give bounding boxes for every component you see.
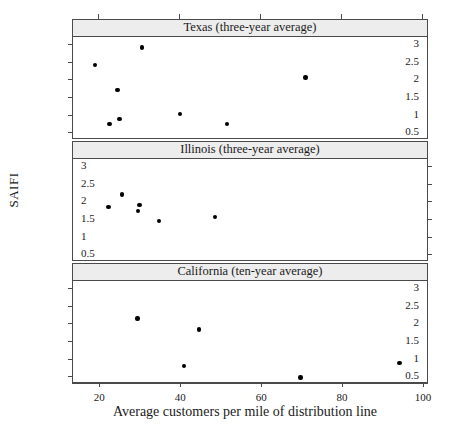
- x-axis-tick: [260, 14, 261, 19]
- y-axis-tick: [68, 97, 73, 98]
- y-axis-tick: [427, 184, 432, 185]
- y-axis-tick: [427, 237, 432, 238]
- data-point: [106, 205, 110, 209]
- y-axis-tick-label: 0.5: [81, 248, 95, 259]
- y-axis-tick-label: 0.5: [405, 370, 419, 381]
- y-axis-tick-label: 2.5: [81, 178, 95, 189]
- panel-plot-area: 0.511.522.5320406080100: [72, 280, 428, 383]
- x-axis-tick-label: 20: [94, 392, 105, 403]
- y-axis-tick-label: 2: [414, 317, 420, 328]
- x-axis-tick: [179, 14, 180, 19]
- panel-plot-area: 0.511.522.53: [72, 158, 428, 261]
- data-point: [136, 209, 140, 213]
- x-axis-tick: [98, 14, 99, 19]
- y-axis-tick: [68, 62, 73, 63]
- y-axis-tick-label: 0.5: [405, 126, 419, 137]
- y-axis-tick-label: 1.5: [405, 335, 419, 346]
- y-axis-label: SAIFI: [0, 0, 26, 380]
- y-axis-tick: [68, 44, 73, 45]
- y-axis-tick-label: 2: [81, 195, 87, 206]
- x-axis-line: [72, 383, 428, 384]
- y-axis-tick-label: 3: [414, 38, 420, 49]
- x-axis-tick-label: 60: [256, 392, 267, 403]
- data-point: [140, 45, 144, 49]
- y-axis-tick: [68, 115, 73, 116]
- y-axis-tick: [427, 201, 432, 202]
- panel-strip-label: California (ten-year average): [72, 263, 428, 280]
- y-axis-tick-label: 2: [414, 73, 420, 84]
- y-axis-tick: [68, 79, 73, 80]
- data-point: [117, 117, 121, 121]
- y-axis-tick: [427, 166, 432, 167]
- y-axis-tick-label: 3: [414, 282, 420, 293]
- data-point: [303, 75, 307, 79]
- data-point: [157, 219, 161, 223]
- y-axis-tick-label: 1: [81, 231, 87, 242]
- y-axis-tick: [68, 306, 73, 307]
- data-point: [197, 327, 201, 331]
- y-axis-tick: [68, 359, 73, 360]
- y-axis-tick: [427, 219, 432, 220]
- x-axis-tick-label: 40: [175, 392, 186, 403]
- data-point: [397, 361, 401, 365]
- data-point: [213, 215, 217, 219]
- y-axis-tick: [68, 376, 73, 377]
- data-point: [298, 375, 302, 379]
- data-point: [120, 192, 124, 196]
- data-point: [178, 112, 182, 116]
- data-point: [107, 122, 111, 126]
- y-axis-tick: [68, 323, 73, 324]
- x-axis-tick-label: 80: [337, 392, 348, 403]
- data-point: [135, 316, 139, 320]
- data-point: [93, 63, 97, 67]
- data-point: [115, 88, 119, 92]
- x-axis-tick: [341, 14, 342, 19]
- y-axis-tick: [68, 288, 73, 289]
- y-axis-tick: [427, 254, 432, 255]
- y-axis-tick: [68, 132, 73, 133]
- chart-figure: SAIFI Texas (three-year average)0.511.52…: [0, 0, 457, 436]
- x-axis-tick-label: 100: [415, 392, 432, 403]
- panel-strip-label: Texas (three-year average): [72, 19, 428, 36]
- x-axis-label: Average customers per mile of distributi…: [60, 404, 430, 420]
- y-axis-label-text: SAIFI: [5, 172, 21, 207]
- y-axis-tick-label: 1: [414, 109, 420, 120]
- data-point: [182, 364, 186, 368]
- data-point: [225, 122, 229, 126]
- y-axis-tick-label: 1.5: [405, 91, 419, 102]
- y-axis-tick-label: 2.5: [405, 56, 419, 67]
- y-axis-tick-label: 2.5: [405, 300, 419, 311]
- panel-plot-area: 0.511.522.53: [72, 36, 428, 139]
- y-axis-tick-label: 1: [414, 353, 420, 364]
- y-axis-tick-label: 3: [81, 160, 87, 171]
- x-axis-tick: [422, 14, 423, 19]
- panel-strip-label: Illinois (three-year average): [72, 141, 428, 158]
- data-point: [137, 203, 141, 207]
- y-axis-tick-label: 1.5: [81, 213, 95, 224]
- y-axis-tick: [68, 341, 73, 342]
